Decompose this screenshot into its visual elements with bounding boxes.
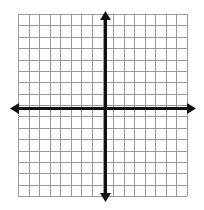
coordinate-grid-svg [0, 0, 204, 210]
coordinate-plane-figure [0, 0, 204, 210]
